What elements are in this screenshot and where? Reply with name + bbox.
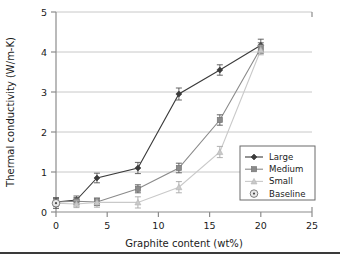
legend-marker-baseline <box>250 190 258 198</box>
x-tick-label-25: 25 <box>306 220 318 231</box>
chart-legend[interactable]: LargeMediumSmallBaseline <box>240 146 315 200</box>
bottom-divider-rule <box>0 252 340 254</box>
x-tick-label-0: 0 <box>53 220 59 231</box>
point-medium-12 <box>176 165 181 170</box>
x-axis-title: Graphite content (wt%) <box>125 238 243 249</box>
y-tick-label-0: 0 <box>41 207 47 218</box>
x-tick-label-10: 10 <box>152 220 164 231</box>
point-baseline-0 <box>52 199 60 207</box>
y-tick-label-3: 3 <box>41 87 47 98</box>
legend-label-large: Large <box>269 152 293 162</box>
point-medium-16 <box>217 117 222 122</box>
legend-label-medium: Medium <box>269 164 303 174</box>
point-medium-8 <box>135 186 140 191</box>
legend-label-small: Small <box>269 176 293 186</box>
thermal-conductivity-chart: 0510152025 012345 Graphite content (wt%)… <box>0 0 340 260</box>
x-tick-label-20: 20 <box>255 220 267 231</box>
legend-label-baseline: Baseline <box>269 189 305 199</box>
y-tick-label-2: 2 <box>41 127 47 138</box>
x-tick-label-5: 5 <box>104 220 110 231</box>
x-tick-label-15: 15 <box>204 220 216 231</box>
legend-marker-medium <box>251 167 256 172</box>
y-tick-label-5: 5 <box>41 7 47 18</box>
y-tick-label-4: 4 <box>41 47 47 58</box>
y-tick-label-1: 1 <box>41 167 47 178</box>
y-axis-title: Thermal conductivity (W/m-K) <box>5 37 16 188</box>
figure-container: 0510152025 012345 Graphite content (wt%)… <box>0 0 340 260</box>
